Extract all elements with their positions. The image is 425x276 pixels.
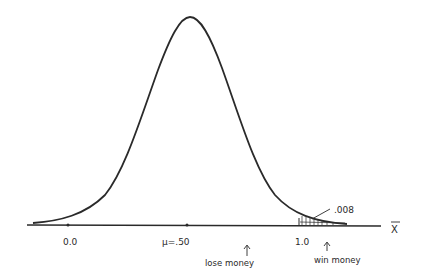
tick-label-0: 0.0 <box>63 237 78 247</box>
lose-money-label: lose money <box>205 258 254 268</box>
tick-mu <box>186 224 189 227</box>
normal-distribution-chart: 0.0 μ=.50 1.0 .008 X lose money win mone… <box>0 0 425 276</box>
area-label: .008 <box>334 205 354 215</box>
bell-curve <box>33 17 347 224</box>
x-axis <box>27 225 381 226</box>
tick-0 <box>67 224 70 227</box>
area-pointer <box>312 209 330 219</box>
lose-money-arrow <box>244 245 250 256</box>
win-money-label: win money <box>314 255 361 265</box>
tick-label-mu: μ=.50 <box>162 237 190 247</box>
x-axis-label: X <box>391 224 398 235</box>
win-money-arrow <box>324 242 330 251</box>
tick-label-1: 1.0 <box>295 237 310 247</box>
